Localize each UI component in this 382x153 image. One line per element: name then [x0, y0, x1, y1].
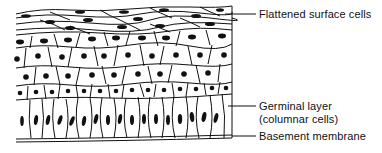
- label-flattened-surface-cells: Flattened surface cells: [259, 8, 371, 20]
- label-basement-membrane: Basement membrane: [259, 130, 366, 142]
- label-germinal-layer: Germinal layer: [259, 100, 332, 112]
- leader-lines: [225, 14, 256, 136]
- label-columnar-cells: (columnar cells): [259, 113, 338, 125]
